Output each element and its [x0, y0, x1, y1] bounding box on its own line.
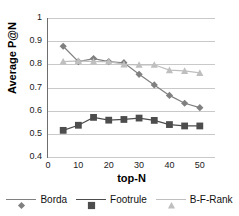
y-tick-label: 1	[0, 12, 42, 22]
plot-area	[48, 18, 215, 157]
x-tick-label: 10	[66, 160, 90, 170]
x-axis-title: top-N	[48, 172, 215, 184]
x-tick-label: 40	[157, 160, 181, 170]
data-point-square	[181, 123, 188, 130]
x-tick-label: 20	[97, 160, 121, 170]
legend-label: Footrule	[108, 194, 147, 205]
series-borda	[60, 43, 204, 112]
data-point-square	[136, 115, 143, 122]
data-point-square	[196, 123, 203, 130]
legend-swatch	[156, 195, 186, 205]
legend-swatch	[6, 195, 36, 205]
series-line	[63, 117, 200, 130]
y-tick-label: 0.6	[0, 105, 42, 115]
legend-item-b-f-rank[interactable]: B-F-Rank	[156, 194, 233, 205]
data-point-diamond	[166, 92, 173, 99]
series-footrule	[60, 114, 203, 134]
data-series-layer	[48, 18, 215, 158]
data-point-diamond	[151, 81, 158, 88]
x-tick-label: 0	[36, 160, 60, 170]
data-point-diamond	[196, 104, 203, 111]
data-point-square	[60, 127, 67, 134]
x-tick-label: 50	[188, 160, 212, 170]
series-line	[63, 61, 200, 73]
y-tick-label: 0.7	[0, 82, 42, 92]
legend-item-borda[interactable]: Borda	[6, 194, 67, 205]
square-marker-icon	[87, 196, 96, 214]
legend-label: Borda	[38, 194, 67, 205]
series-line	[63, 46, 200, 107]
x-tick-label: 30	[127, 160, 151, 170]
y-tick-label: 0.9	[0, 35, 42, 45]
y-tick-label: 0.5	[0, 128, 42, 138]
series-b-f-rank	[60, 57, 204, 76]
legend-swatch	[76, 195, 106, 205]
data-point-square	[121, 116, 128, 123]
legend-item-footrule[interactable]: Footrule	[76, 194, 147, 205]
data-point-diamond	[181, 100, 188, 107]
data-point-square	[151, 117, 158, 124]
data-point-square	[166, 121, 173, 128]
legend-label: B-F-Rank	[188, 194, 233, 205]
chart-figure: Average P@N 0.40.50.60.70.80.91 01020304…	[0, 0, 239, 216]
triangle-marker-icon	[167, 196, 176, 214]
y-tick-label: 0.8	[0, 58, 42, 68]
data-point-square	[105, 117, 112, 124]
data-point-square	[75, 122, 82, 129]
data-point-square	[90, 114, 97, 121]
chart-legend: BordaFootruleB-F-Rank	[0, 194, 239, 205]
diamond-marker-icon	[17, 196, 26, 214]
